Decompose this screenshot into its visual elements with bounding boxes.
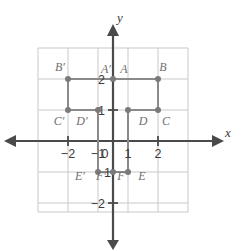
- y-axis-label: y: [115, 10, 123, 25]
- x-tick-label-2: 2: [155, 147, 162, 161]
- vertex-label-f: F: [116, 169, 125, 183]
- y-axis: [107, 24, 119, 250]
- vertex-label-a: A: [119, 62, 128, 76]
- origin-label: 0: [102, 147, 109, 161]
- vertex-label-b: B: [159, 60, 167, 74]
- vertex-label-d-prime: D′: [75, 114, 88, 128]
- polygon-original: [113, 79, 158, 172]
- x-tick-label--2: −2: [61, 147, 75, 161]
- vertex-label-f-prime: F′: [95, 169, 106, 183]
- x-tick-labels: −2 −1 1 2: [61, 147, 162, 161]
- coordinate-plane-svg: −2 −1 1 2 0 2 1 1 −2 x y B′ A′ A B C′ D′…: [0, 0, 241, 251]
- x-axis-label: x: [224, 125, 231, 140]
- vertex-label-d: D: [138, 114, 148, 128]
- vertex-label-c-prime: C′: [54, 114, 65, 128]
- vertex-label-c: C: [162, 114, 171, 128]
- y-tick-label--2: −2: [91, 197, 105, 211]
- vertex-label-e: E: [137, 169, 146, 183]
- vertex-label-a-prime: A′: [100, 62, 111, 76]
- coordinate-plane-figure: −2 −1 1 2 0 2 1 1 −2 x y B′ A′ A B C′ D′…: [0, 0, 241, 251]
- vertex-label-e-prime: E′: [74, 169, 85, 183]
- vertex-label-b-prime: B′: [55, 60, 65, 74]
- x-tick-label-1: 1: [125, 147, 132, 161]
- y-tick-label-1: 1: [98, 104, 105, 118]
